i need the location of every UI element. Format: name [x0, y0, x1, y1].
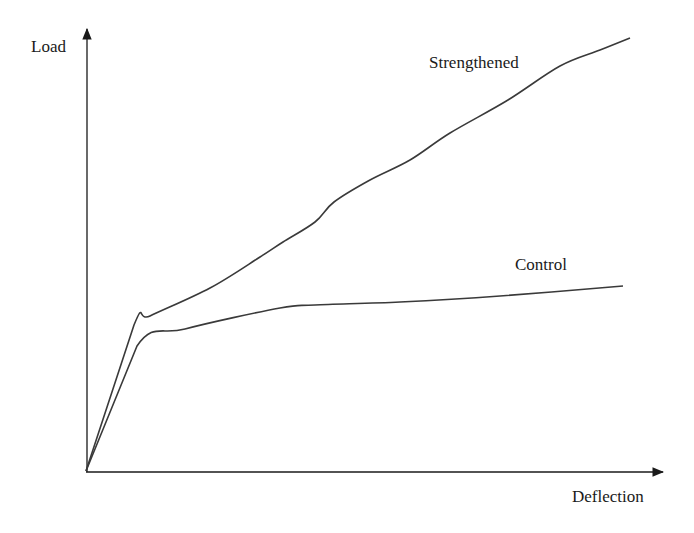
- y-axis-label: Load: [31, 38, 66, 55]
- control-curve: [86, 286, 623, 471]
- control-series-label: Control: [515, 256, 567, 273]
- load-deflection-chart: [0, 0, 694, 533]
- strengthened-series-label: Strengthened: [429, 54, 519, 71]
- x-axis-label: Deflection: [572, 488, 644, 505]
